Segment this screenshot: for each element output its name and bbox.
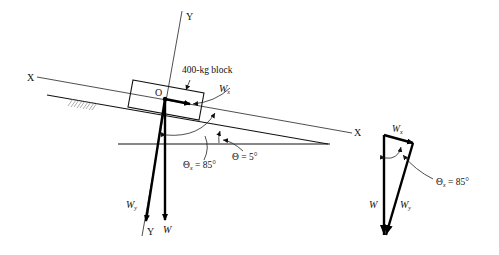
force-triangle: Wx W Wy Θx = 85° xyxy=(369,124,469,235)
wy-vector xyxy=(146,99,165,221)
theta-leader xyxy=(223,140,243,151)
block-leader xyxy=(186,80,190,90)
x-axis-line xyxy=(37,77,352,133)
free-body-diagram: X X Y Y 400-kg block O Wx W Wy Θx = 85° … xyxy=(0,0,499,255)
x-axis-label-right: X xyxy=(354,127,362,138)
triangle-theta-x-label: Θx = 85° xyxy=(436,177,469,188)
wx-label: Wx xyxy=(219,83,230,95)
origin-label: O xyxy=(155,87,162,98)
incline-figure: X X Y Y 400-kg block O Wx W Wy Θx = 85° … xyxy=(27,11,362,237)
theta-label: Θ = 5° xyxy=(232,152,258,162)
triangle-theta-x-arc xyxy=(385,147,401,158)
triangle-wx-label: Wx xyxy=(392,124,403,135)
y-axis-label-bottom: Y xyxy=(147,226,154,237)
triangle-wy-label: Wy xyxy=(400,199,411,211)
triangle-wx-vector xyxy=(384,135,413,143)
y-axis-label-top: Y xyxy=(186,11,193,22)
block-label: 400-kg block xyxy=(182,65,233,75)
theta-x-leader xyxy=(204,136,207,160)
triangle-w-label: W xyxy=(369,199,379,210)
triangle-wy-vector xyxy=(386,143,413,235)
w-label: W xyxy=(163,224,173,235)
theta-arc xyxy=(219,131,220,143)
theta-x-label: Θx = 85° xyxy=(183,160,216,171)
wx-vector xyxy=(165,99,190,104)
x-axis-label-left: X xyxy=(27,72,35,83)
wy-label: Wy xyxy=(126,199,137,211)
theta-x-arc xyxy=(166,113,215,135)
